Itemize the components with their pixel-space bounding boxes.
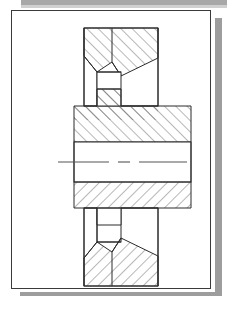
technical-drawing	[11, 10, 212, 290]
diagram-title: Sectional view of a grooved pulley	[0, 0, 1, 1]
legend-hatching-label: Section hatching	[0, 0, 1, 1]
screenshot-canvas: Sectional view of a grooved pulley Secti…	[0, 0, 235, 312]
scanner-top-bar-fade	[21, 5, 227, 8]
lower-rim-groove-hatched	[84, 238, 158, 286]
lower-web-outline	[97, 208, 121, 242]
hub-lower-section	[74, 182, 191, 225]
legend-centerline-label: Axis / centre line	[0, 0, 1, 1]
subject-label: V-belt pulley (sheave) with hub and bore	[0, 0, 1, 1]
view-label: full sectional view	[0, 0, 1, 1]
legend-outline-label: Visible outline	[0, 0, 1, 1]
